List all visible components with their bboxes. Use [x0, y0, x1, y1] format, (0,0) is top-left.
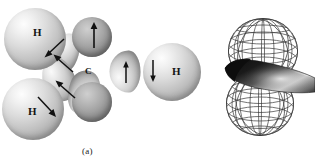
- atom-label-c: C: [85, 66, 92, 76]
- figure-container: H H H C: [0, 0, 318, 166]
- atom-label-h-upper-left: H: [33, 26, 42, 38]
- spin-arrow-top-vertical: [89, 22, 99, 48]
- caption-a: (a): [82, 146, 93, 156]
- spin-arrow-right-inner: [122, 61, 130, 83]
- spin-arrow-right-outer: [149, 60, 157, 82]
- atom-label-h-right: H: [172, 65, 181, 77]
- orbital-diagram: [211, 12, 315, 140]
- spin-arrow-lower-left-h-diag: [37, 96, 59, 118]
- orbital-solid-hybrid-lobe: [225, 59, 315, 94]
- spin-arrow-mid-left-diag: [52, 54, 74, 74]
- atom-label-h-lower-left: H: [28, 105, 37, 117]
- atom-sphere-lower-center: [72, 82, 112, 122]
- panel-b-orbital-wireframe: (b): [205, 0, 318, 166]
- panel-a-molecular-model: H H H C: [0, 0, 205, 166]
